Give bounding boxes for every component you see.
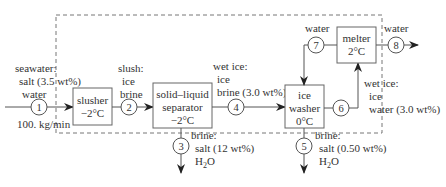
stream-1: 1 seawater: salt (3.5 wt%) water 100. kg… <box>5 62 81 130</box>
svg-text:8: 8 <box>393 40 398 51</box>
unit-slusher: slusher −2°C <box>73 88 112 125</box>
flowchart-diagram: 1 seawater: salt (3.5 wt%) water 100. kg… <box>0 0 446 187</box>
svg-text:brine: brine <box>120 88 143 100</box>
svg-text:7: 7 <box>313 40 318 51</box>
stream-3-h2o: H2O <box>195 155 215 170</box>
svg-text:ice: ice <box>122 75 135 87</box>
stream-1-label-title: seawater: <box>15 62 57 74</box>
svg-text:wet ice:: wet ice: <box>364 77 399 89</box>
svg-text:wet ice:: wet ice: <box>213 60 248 72</box>
svg-text:melter: melter <box>342 32 370 44</box>
svg-text:solid–liquid: solid–liquid <box>156 88 209 100</box>
svg-text:washer: washer <box>289 102 320 114</box>
svg-text:water: water <box>384 22 409 34</box>
stream-2: 2 slush: ice brine <box>112 62 153 115</box>
svg-text:water (3.0 wt%): water (3.0 wt%) <box>369 103 441 116</box>
svg-text:ice: ice <box>298 89 311 101</box>
stream-2-label-title: slush: <box>118 62 144 74</box>
svg-text:0°C: 0°C <box>296 115 313 127</box>
svg-text:−2°C: −2°C <box>81 107 104 119</box>
svg-text:2°C: 2°C <box>348 45 365 57</box>
svg-text:4: 4 <box>233 102 239 113</box>
svg-text:slusher: slusher <box>77 94 109 106</box>
stream-4: 4 wet ice: ice brine (3.0 wt%) <box>212 60 287 115</box>
svg-text:ice: ice <box>217 73 230 85</box>
svg-text:salt (12 wt%): salt (12 wt%) <box>195 142 255 155</box>
unit-separator: solid–liquid separator −2°C <box>153 83 212 128</box>
stream-5: 5 brine: salt (0.50 wt%) H2O <box>296 128 387 173</box>
stream-7: 7 water <box>304 22 337 85</box>
svg-text:brine (3.0 wt%): brine (3.0 wt%) <box>217 86 287 99</box>
stream-3: 3 brine: salt (12 wt%) H2O <box>173 128 255 173</box>
svg-text:brine:: brine: <box>191 129 217 141</box>
stream-1-label-water: water <box>22 88 47 100</box>
svg-text:3: 3 <box>178 141 183 152</box>
unit-melter: melter 2°C <box>337 27 376 63</box>
svg-text:brine:: brine: <box>315 129 341 141</box>
svg-text:5: 5 <box>301 141 306 152</box>
stream-5-h2o: H2O <box>319 155 339 170</box>
svg-text:ice: ice <box>369 90 382 102</box>
svg-text:separator: separator <box>162 101 203 113</box>
svg-text:−2°C: −2°C <box>171 114 194 126</box>
svg-text:6: 6 <box>338 103 343 114</box>
svg-text:1: 1 <box>36 102 41 113</box>
svg-text:2: 2 <box>126 102 131 113</box>
svg-text:water: water <box>305 22 330 34</box>
stream-1-label-salt: salt (3.5 wt%) <box>19 75 81 88</box>
svg-text:salt (0.50 wt%): salt (0.50 wt%) <box>319 142 387 155</box>
stream-1-flow-rate: 100. kg/min <box>17 118 71 130</box>
unit-washer: ice washer 0°C <box>285 85 324 128</box>
